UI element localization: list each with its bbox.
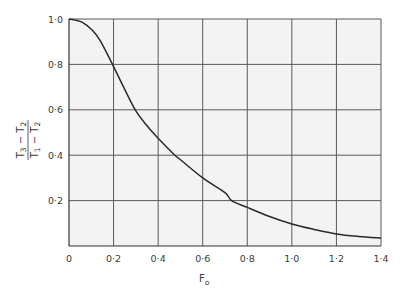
- y-tick-labels: 0·20·40·60·81·0: [48, 14, 63, 207]
- x-tick-label: 1·2: [329, 253, 344, 264]
- ylabel-den-mid: − T: [29, 126, 40, 148]
- x-tick-label: 0·4: [151, 253, 166, 264]
- x-tick-label: 0·6: [195, 253, 210, 264]
- y-axis-label: T3 − T2 T1 − T2: [15, 120, 42, 160]
- ylabel-num-sub2: 2: [19, 122, 28, 127]
- y-tick-label: 0·6: [48, 104, 63, 115]
- x-axis-label-subscript: o: [205, 278, 210, 287]
- y-tick-label: 0·2: [48, 195, 63, 206]
- x-axis-label: Fo: [199, 273, 210, 287]
- y-axis-label-denominator: T1 − T2: [29, 122, 42, 160]
- ylabel-num-mid: − T: [15, 126, 26, 148]
- y-tick-label: 0·8: [48, 59, 63, 70]
- x-tick-label: 1·0: [284, 253, 299, 264]
- x-tick-label: 1·4: [373, 253, 388, 264]
- x-tick-label: 0·2: [106, 253, 121, 264]
- ylabel-den-sub2: 2: [33, 122, 42, 127]
- plot-area: [69, 19, 381, 246]
- y-tick-label: 1·0: [48, 14, 63, 25]
- chart: 00·20·40·60·81·01·21·4 0·20·40·60·81·0 F…: [0, 0, 402, 292]
- x-tick-label: 0·8: [240, 253, 255, 264]
- x-tick-labels: 00·20·40·60·81·01·21·4: [66, 253, 389, 264]
- y-axis-label-numerator: T3 − T2: [15, 122, 28, 160]
- y-tick-label: 0·4: [48, 150, 63, 161]
- x-tick-label: 0: [66, 253, 72, 264]
